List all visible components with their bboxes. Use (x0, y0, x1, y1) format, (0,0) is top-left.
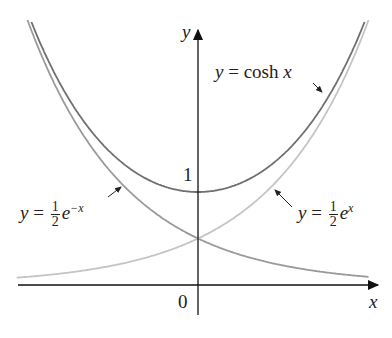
y-axis-label: y (182, 22, 190, 41)
x-axis-label: x (369, 292, 377, 311)
plot-area (0, 0, 392, 338)
right-exp-annotation: y = 12ex (298, 200, 353, 229)
y-tick-one: 1 (183, 165, 193, 184)
half-exp-pos-curve (17, 20, 369, 278)
left-exp-annotation: y = 12e−x (20, 200, 84, 229)
arrow-left (108, 187, 121, 197)
cosh-annotation: y = cosh x (215, 62, 292, 81)
origin-label: 0 (178, 292, 188, 311)
arrow-cosh (313, 83, 322, 92)
arrow-right (275, 190, 292, 207)
